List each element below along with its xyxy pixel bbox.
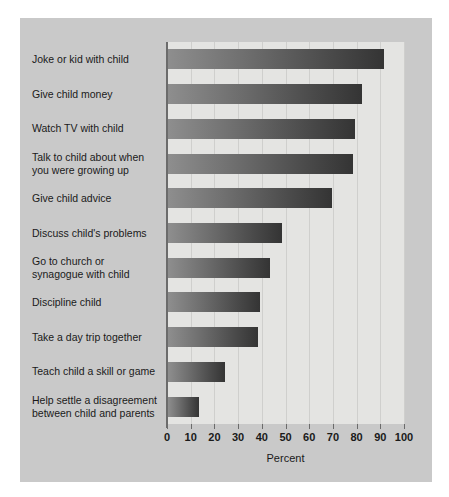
category-label: Teach child a skill or game — [32, 365, 162, 378]
category-label-line: Give child money — [32, 88, 162, 101]
bar — [168, 258, 270, 278]
category-label-line: synagogue with child — [32, 268, 162, 281]
x-tick-mark — [214, 424, 215, 429]
category-label-line: Talk to child about when — [32, 151, 162, 164]
category-label: Take a day trip together — [32, 331, 162, 344]
bar-rows: Joke or kid with childGive child moneyWa… — [20, 42, 432, 424]
chart-figure: Joke or kid with childGive child moneyWa… — [20, 18, 432, 482]
category-label: Discipline child — [32, 296, 162, 309]
x-axis: Percent 0102030405060708090100 — [20, 424, 432, 484]
category-label: Discuss child's problems — [32, 227, 162, 240]
x-tick-mark — [333, 424, 334, 429]
category-label: Help settle a disagreementbetween child … — [32, 394, 162, 419]
category-label: Joke or kid with child — [32, 53, 162, 66]
category-label-line: Discuss child's problems — [32, 227, 162, 240]
category-label: Give child advice — [32, 192, 162, 205]
bar — [168, 327, 258, 347]
bar — [168, 292, 260, 312]
x-tick-mark — [357, 424, 358, 429]
category-label-line: Take a day trip together — [32, 331, 162, 344]
bar — [168, 119, 355, 139]
bar — [168, 49, 384, 69]
category-label: Watch TV with child — [32, 122, 162, 135]
category-label-line: Joke or kid with child — [32, 53, 162, 66]
x-tick-label: 100 — [389, 431, 419, 443]
x-axis-title: Percent — [167, 452, 404, 464]
bar — [168, 397, 199, 417]
x-tick-mark — [238, 424, 239, 429]
category-label: Talk to child about whenyou were growing… — [32, 151, 162, 176]
category-label: Go to church orsynagogue with child — [32, 255, 162, 280]
x-tick-mark — [286, 424, 287, 429]
bar — [168, 84, 362, 104]
bar — [168, 362, 225, 382]
bar — [168, 188, 332, 208]
x-tick-mark — [309, 424, 310, 429]
category-label-line: Help settle a disagreement — [32, 394, 162, 407]
category-label-line: Go to church or — [32, 255, 162, 268]
category-label-line: Give child advice — [32, 192, 162, 205]
category-label-line: Teach child a skill or game — [32, 365, 162, 378]
x-tick-mark — [380, 424, 381, 429]
category-label-line: you were growing up — [32, 164, 162, 177]
category-label: Give child money — [32, 88, 162, 101]
bar — [168, 223, 282, 243]
category-label-line: between child and parents — [32, 407, 162, 420]
category-label-line: Watch TV with child — [32, 122, 162, 135]
x-tick-mark — [262, 424, 263, 429]
x-tick-mark — [191, 424, 192, 429]
x-tick-mark — [167, 424, 168, 429]
category-label-line: Discipline child — [32, 296, 162, 309]
x-tick-mark — [404, 424, 405, 429]
bar — [168, 154, 353, 174]
